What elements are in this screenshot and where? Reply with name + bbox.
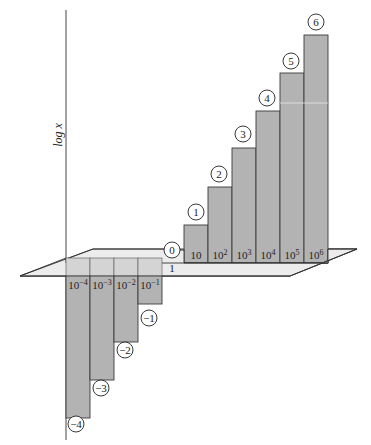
bar-10-4 <box>256 111 280 263</box>
log-scale-diagram: log x 1 10 102 103 104 105 <box>0 0 371 445</box>
negative-bars-top <box>66 258 162 276</box>
svg-text:2: 2 <box>216 168 222 180</box>
svg-text:0: 0 <box>169 244 175 256</box>
svg-text:5: 5 <box>288 55 294 67</box>
svg-text:1: 1 <box>193 206 199 218</box>
svg-text:3: 3 <box>240 128 246 140</box>
svg-text:10: 10 <box>191 249 203 261</box>
bar-10-5 <box>280 73 304 263</box>
svg-text:−4: −4 <box>70 418 82 430</box>
svg-text:−1: −1 <box>143 312 155 324</box>
svg-text:4: 4 <box>264 92 270 104</box>
positive-bars <box>184 35 328 263</box>
axis-label: log x <box>51 123 65 147</box>
svg-text:−2: −2 <box>119 344 131 356</box>
svg-text:6: 6 <box>313 16 319 28</box>
svg-text:−3: −3 <box>95 382 107 394</box>
negative-bars <box>66 276 162 418</box>
plane-label: 1 <box>169 262 175 274</box>
bar-10-neg4 <box>66 276 90 418</box>
bar-10-3 <box>232 148 256 263</box>
bar-10-6 <box>304 35 328 263</box>
bar-10-neg3 <box>90 276 114 380</box>
